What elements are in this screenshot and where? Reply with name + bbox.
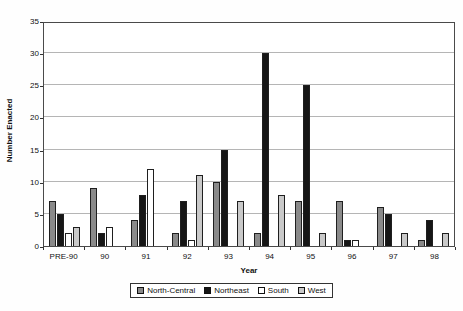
x-tick-mark bbox=[414, 247, 415, 250]
bar-Northeast-90 bbox=[98, 233, 105, 246]
legend-label: Northeast bbox=[214, 286, 249, 295]
bar-West-PRE-90 bbox=[73, 227, 80, 246]
y-axis-title: Number Enacted bbox=[5, 86, 14, 176]
bar-West-97 bbox=[401, 233, 408, 246]
x-tick-mark bbox=[125, 247, 126, 250]
x-tick-mark bbox=[208, 247, 209, 250]
bar-Northeast-93 bbox=[221, 150, 228, 246]
x-tick-mark bbox=[373, 247, 374, 250]
bar-South-92 bbox=[188, 240, 195, 246]
y-tick-mark bbox=[40, 151, 43, 152]
bar-West-93 bbox=[237, 201, 244, 246]
legend-box: North-CentralNortheastSouthWest bbox=[130, 283, 333, 298]
x-tick-label: 96 bbox=[348, 252, 357, 261]
bar-West-95 bbox=[319, 233, 326, 246]
bar-North-Central-PRE-90 bbox=[49, 201, 56, 246]
bar-South-90 bbox=[106, 227, 113, 246]
y-tick-label: 15 bbox=[13, 147, 39, 155]
y-tick-mark bbox=[40, 183, 43, 184]
bar-Northeast-95 bbox=[303, 85, 310, 246]
bar-group-98 bbox=[413, 23, 454, 246]
y-tick-label: 0 bbox=[13, 243, 39, 251]
bar-Northeast-96 bbox=[344, 240, 351, 246]
bar-group-93 bbox=[208, 23, 249, 246]
legend-item-North-Central: North-Central bbox=[137, 286, 195, 295]
bar-West-94 bbox=[278, 195, 285, 246]
bar-Northeast-91 bbox=[139, 195, 146, 246]
legend-label: South bbox=[268, 286, 289, 295]
bar-South-96 bbox=[352, 240, 359, 246]
x-tick-label: 91 bbox=[142, 252, 151, 261]
x-tick-label: 90 bbox=[100, 252, 109, 261]
legend-item-South: South bbox=[258, 286, 289, 295]
legend-swatch-icon bbox=[137, 287, 144, 294]
bar-North-Central-92 bbox=[172, 233, 179, 246]
plot-area bbox=[43, 22, 455, 247]
bar-group-96 bbox=[331, 23, 372, 246]
bar-group-90 bbox=[85, 23, 126, 246]
y-tick-mark bbox=[40, 86, 43, 87]
bar-West-98 bbox=[442, 233, 449, 246]
bar-South-PRE-90 bbox=[65, 233, 72, 246]
x-tick-mark bbox=[167, 247, 168, 250]
bar-North-Central-93 bbox=[213, 182, 220, 246]
bar-chart-figure: Number Enacted 05101520253035 PRE-909091… bbox=[0, 0, 463, 311]
legend: North-CentralNortheastSouthWest bbox=[0, 283, 463, 298]
x-tick-mark bbox=[331, 247, 332, 250]
bar-groups bbox=[44, 23, 454, 246]
y-tick-mark bbox=[40, 118, 43, 119]
y-tick-label: 25 bbox=[13, 82, 39, 90]
legend-item-West: West bbox=[298, 286, 326, 295]
y-tick-label: 10 bbox=[13, 179, 39, 187]
legend-label: North-Central bbox=[147, 286, 195, 295]
bar-North-Central-91 bbox=[131, 220, 138, 246]
y-tick-mark bbox=[40, 54, 43, 55]
bar-group-PRE-90 bbox=[44, 23, 85, 246]
bar-Northeast-94 bbox=[262, 53, 269, 246]
x-tick-label: 95 bbox=[306, 252, 315, 261]
x-tick-mark bbox=[249, 247, 250, 250]
bar-North-Central-90 bbox=[90, 188, 97, 246]
x-tick-label: 92 bbox=[183, 252, 192, 261]
bar-North-Central-97 bbox=[377, 207, 384, 246]
x-tick-mark bbox=[455, 247, 456, 250]
x-axis-title: Year bbox=[43, 266, 455, 275]
legend-swatch-icon bbox=[204, 287, 211, 294]
bar-Northeast-PRE-90 bbox=[57, 214, 64, 246]
bar-group-94 bbox=[249, 23, 290, 246]
y-tick-label: 35 bbox=[13, 18, 39, 26]
bar-group-91 bbox=[126, 23, 167, 246]
bar-group-97 bbox=[372, 23, 413, 246]
bar-North-Central-94 bbox=[254, 233, 261, 246]
bar-North-Central-98 bbox=[418, 240, 425, 246]
bar-South-91 bbox=[147, 169, 154, 246]
bar-Northeast-97 bbox=[385, 214, 392, 246]
bar-West-92 bbox=[196, 175, 203, 246]
x-tick-mark bbox=[290, 247, 291, 250]
x-tick-label: 97 bbox=[389, 252, 398, 261]
legend-swatch-icon bbox=[298, 287, 305, 294]
bar-group-92 bbox=[167, 23, 208, 246]
legend-label: West bbox=[308, 286, 326, 295]
x-tick-mark bbox=[43, 247, 44, 250]
y-tick-label: 5 bbox=[13, 211, 39, 219]
x-tick-mark bbox=[84, 247, 85, 250]
y-tick-mark bbox=[40, 22, 43, 23]
y-tick-mark bbox=[40, 215, 43, 216]
bar-North-Central-95 bbox=[295, 201, 302, 246]
x-tick-label: PRE-90 bbox=[50, 252, 78, 261]
y-tick-label: 20 bbox=[13, 114, 39, 122]
bar-group-95 bbox=[290, 23, 331, 246]
x-tick-label: 98 bbox=[430, 252, 439, 261]
bar-Northeast-92 bbox=[180, 201, 187, 246]
legend-item-Northeast: Northeast bbox=[204, 286, 249, 295]
bar-North-Central-96 bbox=[336, 201, 343, 246]
x-tick-label: 94 bbox=[265, 252, 274, 261]
y-tick-label: 30 bbox=[13, 50, 39, 58]
legend-swatch-icon bbox=[258, 287, 265, 294]
x-tick-label: 93 bbox=[224, 252, 233, 261]
bar-Northeast-98 bbox=[426, 220, 433, 246]
